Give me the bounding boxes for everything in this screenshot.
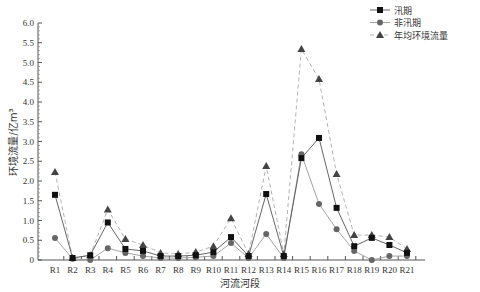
circle-marker-icon [316,201,322,207]
square-marker-icon [70,255,76,261]
y-tick-label: 5.5 [23,38,35,48]
x-tick-label: R17 [329,265,345,275]
x-tick-label: R3 [85,265,96,275]
square-marker-icon [175,253,181,259]
square-marker-icon [351,243,357,249]
y-axis-title: 环境流量/亿m³ [7,108,19,175]
y-tick-label: 0.5 [23,235,35,245]
x-tick-label: R16 [311,265,327,275]
x-tick-label: R20 [382,265,398,275]
square-marker-icon [281,253,287,259]
triangle-marker-icon [333,170,341,177]
x-tick-label: R15 [294,265,310,275]
triangle-marker-icon [262,162,270,169]
x-tick-label: R13 [259,265,275,275]
x-tick-label: R21 [399,265,414,275]
legend-item: 年均环境流量 [370,30,448,41]
legend-label: 非汛期 [394,17,421,28]
legend-label: 汛期 [394,6,412,16]
y-tick-label: 6.0 [23,18,35,28]
square-marker-icon [228,234,234,240]
y-tick-label: 0 [30,255,35,265]
circle-marker-icon [105,245,111,251]
square-marker-icon [122,246,128,252]
square-marker-icon [404,250,410,256]
legend-label: 年均环境流量 [394,30,448,41]
circle-marker-icon [334,226,340,232]
square-marker-icon [105,219,111,225]
legend-item: 非汛期 [370,17,421,28]
x-tick-label: R7 [155,265,166,275]
square-marker-icon [52,192,58,198]
x-tick-label: R6 [138,265,149,275]
x-tick-label: R18 [347,265,363,275]
triangle-marker-icon [376,31,384,38]
circle-marker-icon [228,240,234,246]
x-tick-label: R11 [224,265,239,275]
triangle-marker-icon [297,45,305,52]
x-tick-label: R8 [173,265,184,275]
circle-marker-icon [52,235,58,241]
x-tick-label: R1 [50,265,61,275]
axes: 00.51.01.52.02.53.03.54.04.55.05.56.0R1R… [23,18,425,275]
y-tick-label: 4.5 [23,77,35,87]
series-line [55,49,407,258]
x-tick-label: R5 [120,265,131,275]
y-tick-label: 1.0 [23,216,35,226]
y-tick-label: 5.0 [23,58,35,68]
x-tick-label: R19 [364,265,380,275]
y-tick-label: 4.0 [23,97,35,107]
y-tick-label: 1.5 [23,196,35,206]
circle-marker-icon [386,253,392,259]
line-chart: 00.51.01.52.02.53.03.54.04.55.05.56.0R1R… [0,0,480,292]
triangle-marker-icon [315,75,323,82]
triangle-marker-icon [227,214,235,221]
square-marker-icon [210,249,216,255]
x-axis-title: 河流河段 [220,277,260,289]
x-tick-label: R10 [206,265,222,275]
square-marker-icon [87,252,93,258]
triangle-marker-icon [350,231,358,238]
legend: 汛期非汛期年均环境流量 [370,6,448,41]
y-tick-label: 2.0 [23,176,35,186]
triangle-marker-icon [209,242,217,249]
square-marker-icon [369,235,375,241]
y-tick-label: 3.5 [23,117,35,127]
triangle-marker-icon [104,205,112,212]
triangle-marker-icon [51,168,59,175]
y-tick-label: 3.0 [23,137,35,147]
square-marker-icon [263,191,269,197]
square-marker-icon [334,205,340,211]
circle-marker-icon [377,20,383,26]
x-tick-label: R14 [276,265,292,275]
y-tick-label: 2.5 [23,156,35,166]
x-tick-label: R4 [103,265,114,275]
triangle-marker-icon [121,235,129,242]
square-marker-icon [158,253,164,259]
circle-marker-icon [263,231,269,237]
square-marker-icon [193,252,199,258]
x-tick-label: R2 [67,265,78,275]
square-marker-icon [386,242,392,248]
square-marker-icon [377,7,383,13]
square-marker-icon [316,135,322,141]
legend-item: 汛期 [370,6,412,16]
series-group [51,45,411,263]
circle-marker-icon [369,257,375,263]
series-2 [55,49,407,258]
square-marker-icon [140,248,146,254]
x-tick-label: R9 [191,265,202,275]
square-marker-icon [298,155,304,161]
x-tick-label: R12 [241,265,256,275]
square-marker-icon [246,253,252,259]
circle-marker-icon [140,253,146,259]
